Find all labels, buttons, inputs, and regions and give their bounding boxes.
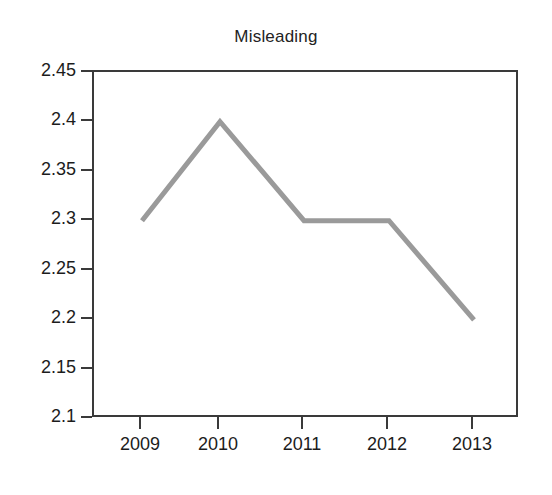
x-tick-label-text: 2010 xyxy=(173,432,263,456)
chart-title: Misleading xyxy=(0,26,552,48)
y-tick-label-2-1: 2.1 xyxy=(0,407,76,425)
y-tick-label-2-2: 2.2 xyxy=(0,308,76,326)
y-tick-mark xyxy=(81,218,92,220)
x-tick-label-text: 2009 xyxy=(95,432,185,456)
y-tick-label-text: 2.4 xyxy=(8,110,76,128)
y-tick-label-text: 2.1 xyxy=(8,407,76,425)
series-line xyxy=(142,122,474,320)
plot-area xyxy=(92,70,518,417)
y-tick-label-text: 2.45 xyxy=(8,61,76,79)
x-tick-mark xyxy=(471,417,473,429)
y-tick-label-text: 2.25 xyxy=(8,259,76,277)
y-tick-mark xyxy=(81,367,92,369)
y-tick-mark xyxy=(81,268,92,270)
y-tick-label-text: 2.35 xyxy=(8,160,76,178)
x-tick-label-2009: 2009 xyxy=(95,432,185,456)
x-tick-label-2013: 2013 xyxy=(427,432,517,456)
x-tick-label-text: 2011 xyxy=(257,432,347,456)
x-tick-mark xyxy=(386,417,388,429)
x-tick-label-2010: 2010 xyxy=(173,432,263,456)
y-tick-label-2-15: 2.15 xyxy=(0,358,76,376)
x-tick-label-2012: 2012 xyxy=(342,432,432,456)
y-tick-label-text: 2.2 xyxy=(8,308,76,326)
y-tick-label-2-25: 2.25 xyxy=(0,259,76,277)
y-tick-label-text: 2.3 xyxy=(8,209,76,227)
data-line-series xyxy=(94,72,520,419)
y-tick-label-text: 2.15 xyxy=(8,358,76,376)
y-tick-mark xyxy=(81,317,92,319)
y-tick-mark xyxy=(81,119,92,121)
y-tick-label-2-35: 2.35 xyxy=(0,160,76,178)
chart-figure: Misleading 2.45 2.4 2.35 2.3 2.25 2.2 2.… xyxy=(0,0,552,495)
x-tick-label-text: 2013 xyxy=(427,432,517,456)
y-tick-mark xyxy=(81,70,92,72)
y-tick-mark xyxy=(81,416,92,418)
x-tick-mark xyxy=(139,417,141,429)
y-tick-label-2-45: 2.45 xyxy=(0,61,76,79)
x-tick-label-text: 2012 xyxy=(342,432,432,456)
x-tick-label-2011: 2011 xyxy=(257,432,347,456)
y-tick-mark xyxy=(81,169,92,171)
y-tick-label-2-4: 2.4 xyxy=(0,110,76,128)
y-tick-label-2-3: 2.3 xyxy=(0,209,76,227)
x-tick-mark xyxy=(217,417,219,429)
x-tick-mark xyxy=(301,417,303,429)
